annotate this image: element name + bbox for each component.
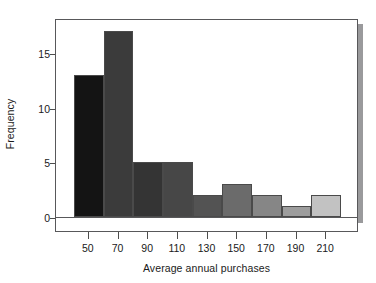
- histogram-chart: Frequency 051015 50709011013015017019021…: [0, 0, 376, 283]
- x-axis-tick-mark: [266, 232, 267, 239]
- x-axis-tick-labels: 507090110130150170190210: [55, 243, 358, 257]
- histogram-bar: [104, 31, 134, 217]
- histogram-bar: [74, 75, 104, 217]
- y-axis-tick-label: 5: [24, 158, 50, 169]
- x-axis-tick-mark: [88, 232, 89, 239]
- y-axis-tick-label: 0: [24, 213, 50, 224]
- x-axis-tick-label: 210: [305, 243, 345, 254]
- y-axis-title: Frequency: [4, 4, 20, 84]
- x-axis-title: Average annual purchases: [55, 262, 358, 274]
- x-axis-tick-mark: [236, 232, 237, 239]
- histogram-bar: [133, 162, 163, 217]
- x-axis-tick-mark: [177, 232, 178, 239]
- histogram-bars: [56, 20, 357, 217]
- x-axis-band: [55, 218, 358, 232]
- histogram-bar: [222, 184, 252, 217]
- y-axis-title-text: Frequency: [4, 84, 16, 164]
- x-axis-tick-mark: [207, 232, 208, 239]
- histogram-bar: [282, 206, 312, 217]
- x-axis-tick-mark: [118, 232, 119, 239]
- histogram-bar: [193, 195, 223, 217]
- y-axis-tick-label: 10: [24, 104, 50, 115]
- histogram-bar: [311, 195, 341, 217]
- y-axis-tick-labels: 051015: [22, 0, 50, 283]
- plot-shadow-right: [358, 24, 363, 223]
- x-axis-tick-mark: [325, 232, 326, 239]
- x-axis-tick-mark: [147, 232, 148, 239]
- x-axis-tick-marks: [55, 232, 358, 240]
- x-axis-tick-mark: [296, 232, 297, 239]
- histogram-bar: [252, 195, 282, 217]
- plot-area: [55, 19, 358, 218]
- y-axis-tick-label: 15: [24, 49, 50, 60]
- histogram-bar: [163, 162, 193, 217]
